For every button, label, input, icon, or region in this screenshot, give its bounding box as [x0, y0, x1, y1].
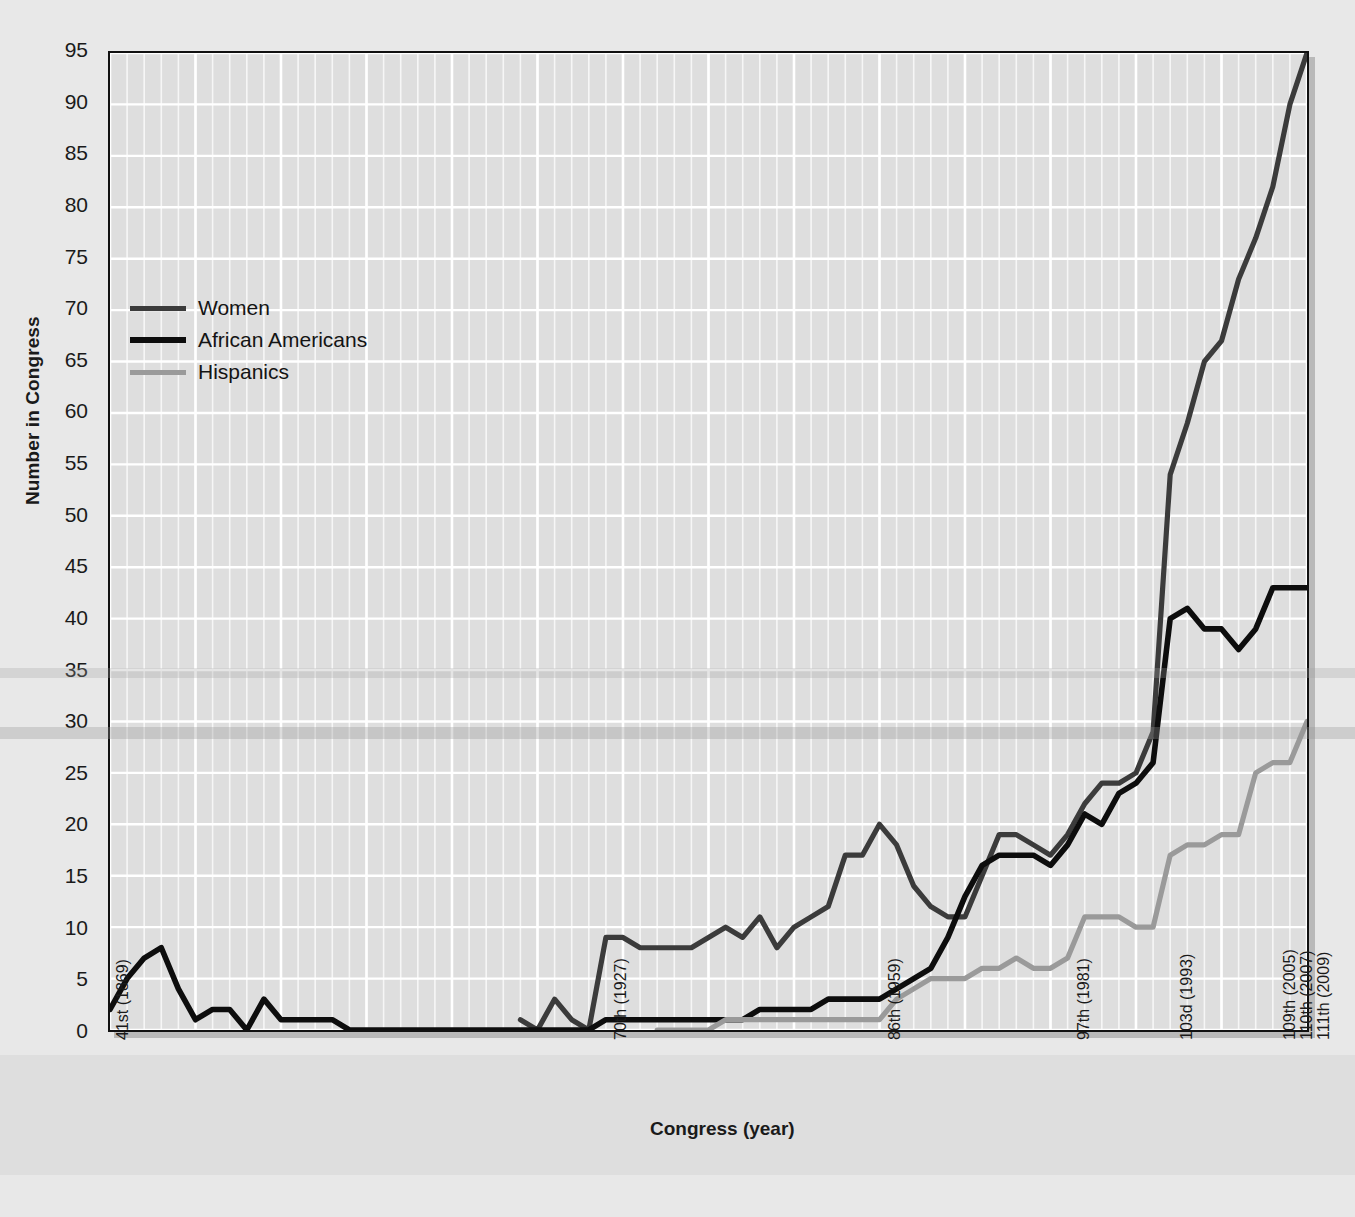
x-tick-label: 86th (1959): [887, 958, 903, 1040]
x-tick-label: 103d (1993): [1179, 954, 1195, 1040]
y-tick-label: 15: [42, 865, 88, 886]
legend-swatch-icon: [130, 337, 186, 343]
y-tick-label: 40: [42, 607, 88, 628]
x-tick-label: 97th (1981): [1076, 958, 1092, 1040]
y-tick-label: 45: [42, 555, 88, 576]
x-tick-label: 109th (2005): [1282, 949, 1298, 1040]
series-lines: [110, 53, 1307, 1030]
legend-label: Women: [198, 296, 270, 320]
y-tick-label: 10: [42, 917, 88, 938]
x-tick-label: 41st (1869): [115, 959, 131, 1040]
legend-item-hispanics: Hispanics: [130, 356, 430, 388]
plot-area: [108, 51, 1309, 1032]
y-tick-label: 85: [42, 142, 88, 163]
y-tick-label: 90: [42, 91, 88, 112]
y-tick-label: 30: [42, 710, 88, 731]
y-tick-label: 0: [42, 1020, 88, 1041]
legend-swatch-icon: [130, 370, 186, 375]
y-tick-label: 80: [42, 194, 88, 215]
chart-figure: Number in Congress 051015202530354045505…: [0, 0, 1355, 1217]
y-tick-label: 75: [42, 246, 88, 267]
y-tick-label: 50: [42, 504, 88, 525]
y-tick-label: 25: [42, 762, 88, 783]
y-tick-label: 55: [42, 452, 88, 473]
legend: WomenAfrican AmericansHispanics: [130, 292, 430, 388]
legend-label: African Americans: [198, 328, 367, 352]
y-tick-label: 5: [42, 968, 88, 989]
x-tick-label: 110th (2007): [1299, 950, 1315, 1040]
y-tick-label: 70: [42, 297, 88, 318]
legend-label: Hispanics: [198, 360, 289, 384]
y-tick-label: 65: [42, 349, 88, 370]
legend-item-women: Women: [130, 292, 430, 324]
y-tick-label: 20: [42, 813, 88, 834]
x-axis-title: Congress (year): [650, 1118, 795, 1140]
y-tick-label: 95: [42, 39, 88, 60]
y-axis-tick-labels: 05101520253035404550556065707580859095: [40, 0, 88, 1217]
legend-item-african-americans: African Americans: [130, 324, 430, 356]
y-tick-label: 60: [42, 400, 88, 421]
legend-swatch-icon: [130, 306, 186, 311]
x-tick-label: 70th (1927): [613, 958, 629, 1040]
y-tick-label: 35: [42, 659, 88, 680]
x-tick-label: 111th (2009): [1316, 952, 1332, 1040]
